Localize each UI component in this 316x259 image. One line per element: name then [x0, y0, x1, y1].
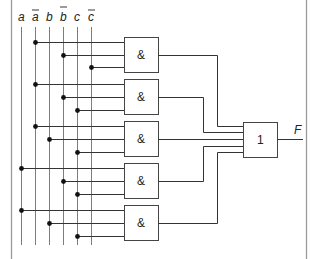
input-labels: a a b b c c [18, 7, 95, 24]
junction-dot [47, 137, 52, 142]
and-gate-1-label: & [137, 48, 145, 62]
and-gate-4-label: & [137, 174, 145, 188]
junction-dot [75, 192, 80, 197]
label-a: a [18, 10, 25, 24]
junction-dot [75, 108, 80, 113]
logic-circuit-diagram: a a b b c c & & [0, 0, 316, 259]
and-gate-2-output-wire [159, 98, 244, 133]
junction-dot [47, 221, 52, 226]
and-gate-4-output-wire [159, 147, 244, 182]
label-b-bar: b [60, 10, 67, 24]
label-c-bar: c [88, 10, 94, 24]
label-b: b [46, 10, 53, 24]
and-gate-1-output-wire [159, 56, 244, 127]
junction-dot [19, 166, 24, 171]
and-gate-3-group: & [33, 122, 243, 157]
or-gate-label: 1 [257, 133, 264, 147]
junction-dot [33, 82, 38, 87]
and-gate-5-label: & [137, 216, 145, 230]
label-c: c [74, 10, 80, 24]
and-gate-3-label: & [137, 132, 145, 146]
input-buses [22, 27, 92, 245]
junction-dot [61, 95, 66, 100]
and-gate-5-output-wire [159, 153, 244, 224]
junction-dot [19, 208, 24, 213]
junction-dot [89, 65, 94, 70]
and-gate-2-label: & [137, 90, 145, 104]
or-gate-group: 1 F [244, 123, 304, 158]
junction-dot [61, 53, 66, 58]
junction-dot [75, 234, 80, 239]
junction-dot [33, 124, 38, 129]
junction-dot [75, 150, 80, 155]
output-label-f: F [294, 123, 302, 137]
junction-dot [61, 179, 66, 184]
label-a-bar: a [32, 10, 39, 24]
junction-dot [33, 40, 38, 45]
